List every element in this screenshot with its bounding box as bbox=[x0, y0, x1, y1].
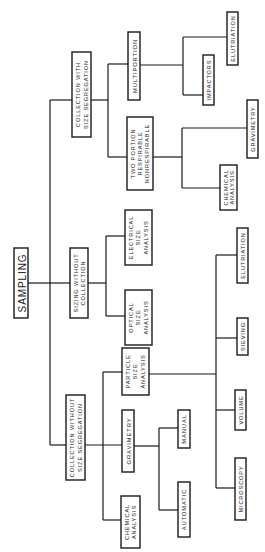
svg-text:SIZE: SIZE bbox=[132, 363, 138, 379]
node-elutriation-lower: ELUTRIATION bbox=[237, 228, 248, 283]
node-sieving: SIEVING bbox=[237, 318, 248, 355]
svg-text:MULTIPORTION: MULTIPORTION bbox=[132, 39, 138, 93]
svg-text:SIZING WITHOUT: SIZING WITHOUT bbox=[73, 254, 79, 313]
svg-text:CHEMICAL: CHEMICAL bbox=[223, 169, 229, 205]
node-gravimetry-left: GRAVIMETRY bbox=[122, 410, 134, 472]
node-sizing-without-collection: SIZING WITHOUT COLLECTION bbox=[70, 248, 88, 318]
node-sampling: SAMPLING bbox=[14, 248, 28, 318]
svg-text:SIEVING: SIEVING bbox=[240, 322, 246, 351]
svg-text:ANALYSIS: ANALYSIS bbox=[229, 170, 235, 204]
svg-text:IMPACTORS: IMPACTORS bbox=[206, 60, 212, 101]
node-collection-without-size-segregation: COLLECTION WITHOUT SIZE SEGREGATION bbox=[66, 395, 85, 480]
node-chemical-analysis-left: CHEMICAL ANALYSIS bbox=[121, 496, 140, 548]
connectors bbox=[28, 37, 247, 520]
node-particle-size-analysis: PARTICLE SIZE ANALYSIS bbox=[122, 348, 149, 395]
node-two-portion-respirable-nonrespirable: TWO PORTION RESPIRABLE NONRESPIRABLE bbox=[127, 117, 153, 190]
node-manual: MANUAL bbox=[178, 410, 190, 448]
svg-text:SIZE SEGREGATION: SIZE SEGREGATION bbox=[77, 403, 83, 472]
svg-text:OPTICAL: OPTICAL bbox=[128, 302, 134, 332]
svg-text:SIZE: SIZE bbox=[135, 309, 141, 325]
svg-text:ELUTRIATION: ELUTRIATION bbox=[230, 15, 236, 61]
svg-text:AUTOMATIC: AUTOMATIC bbox=[181, 489, 187, 531]
node-automatic: AUTOMATIC bbox=[178, 482, 190, 537]
svg-text:MANUAL: MANUAL bbox=[181, 414, 187, 444]
svg-text:COLLECTION WITH: COLLECTION WITH bbox=[75, 62, 81, 127]
svg-text:PARTICLE: PARTICLE bbox=[125, 354, 131, 388]
node-volume: VOLUME bbox=[235, 390, 246, 430]
svg-text:MICROSCOPY: MICROSCOPY bbox=[238, 465, 244, 512]
svg-text:RESPIRABLE: RESPIRABLE bbox=[137, 131, 143, 175]
node-elutriation-top: ELUTRIATION bbox=[227, 12, 238, 65]
node-collection-with-size-segregation: COLLECTION WITH SIZE SEGREGATION bbox=[72, 52, 91, 137]
svg-text:SAMPLING: SAMPLING bbox=[17, 254, 28, 313]
node-optical-size-analysis: OPTICAL SIZE ANALYSIS bbox=[125, 290, 152, 345]
svg-text:ANALYSIS: ANALYSIS bbox=[143, 220, 149, 254]
svg-text:GRAVIMETRY: GRAVIMETRY bbox=[250, 106, 256, 151]
svg-text:CHEMICAL: CHEMICAL bbox=[124, 504, 130, 540]
svg-text:SIZE SEGREGATION: SIZE SEGREGATION bbox=[83, 60, 89, 129]
node-gravimetry-right: GRAVIMETRY bbox=[247, 100, 258, 158]
svg-text:TWO PORTION: TWO PORTION bbox=[130, 129, 136, 179]
node-electrical-size-analysis: ELECTRICAL SIZE ANALYSIS bbox=[125, 210, 152, 265]
node-impactors: IMPACTORS bbox=[203, 55, 214, 105]
svg-text:ELECTRICAL: ELECTRICAL bbox=[128, 216, 134, 260]
svg-text:NONRESPIRABLE: NONRESPIRABLE bbox=[144, 124, 150, 183]
svg-text:GRAVIMETRY: GRAVIMETRY bbox=[126, 418, 132, 465]
svg-text:ANALYSIS: ANALYSIS bbox=[143, 300, 149, 334]
svg-text:ANALYSIS: ANALYSIS bbox=[140, 354, 146, 388]
node-multiportion: MULTIPORTION bbox=[128, 32, 140, 100]
svg-text:SIZE: SIZE bbox=[135, 229, 141, 245]
node-microscopy: MICROSCOPY bbox=[235, 458, 246, 520]
svg-text:VOLUME: VOLUME bbox=[238, 395, 244, 424]
node-chemical-analysis-right: CHEMICAL ANALYSIS bbox=[220, 165, 237, 210]
svg-text:ANALYSIS: ANALYSIS bbox=[131, 505, 137, 539]
svg-text:COLLECTION: COLLECTION bbox=[80, 261, 86, 306]
svg-text:COLLECTION WITHOUT: COLLECTION WITHOUT bbox=[69, 398, 75, 478]
svg-text:ELUTRIATION: ELUTRIATION bbox=[240, 232, 246, 278]
sampling-tree-diagram: SAMPLING COLLECTION WITH SIZE SEGREGATIO… bbox=[0, 0, 265, 552]
